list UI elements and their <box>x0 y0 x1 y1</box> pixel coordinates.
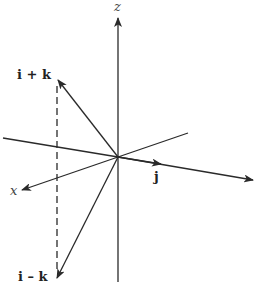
j-label: j <box>153 169 159 184</box>
vector-i-plus-k <box>58 80 118 157</box>
z-axis-label: z <box>113 0 121 14</box>
i-minus-k-label: i – k <box>18 269 48 284</box>
y-axis-negative <box>3 138 118 157</box>
vector-j <box>118 157 161 164</box>
x-axis-label: x <box>10 183 18 198</box>
x-axis-negative <box>118 133 188 157</box>
i-plus-k-label: i + k <box>17 67 52 82</box>
vector-diagram: z x j i + k i – k <box>0 0 260 289</box>
